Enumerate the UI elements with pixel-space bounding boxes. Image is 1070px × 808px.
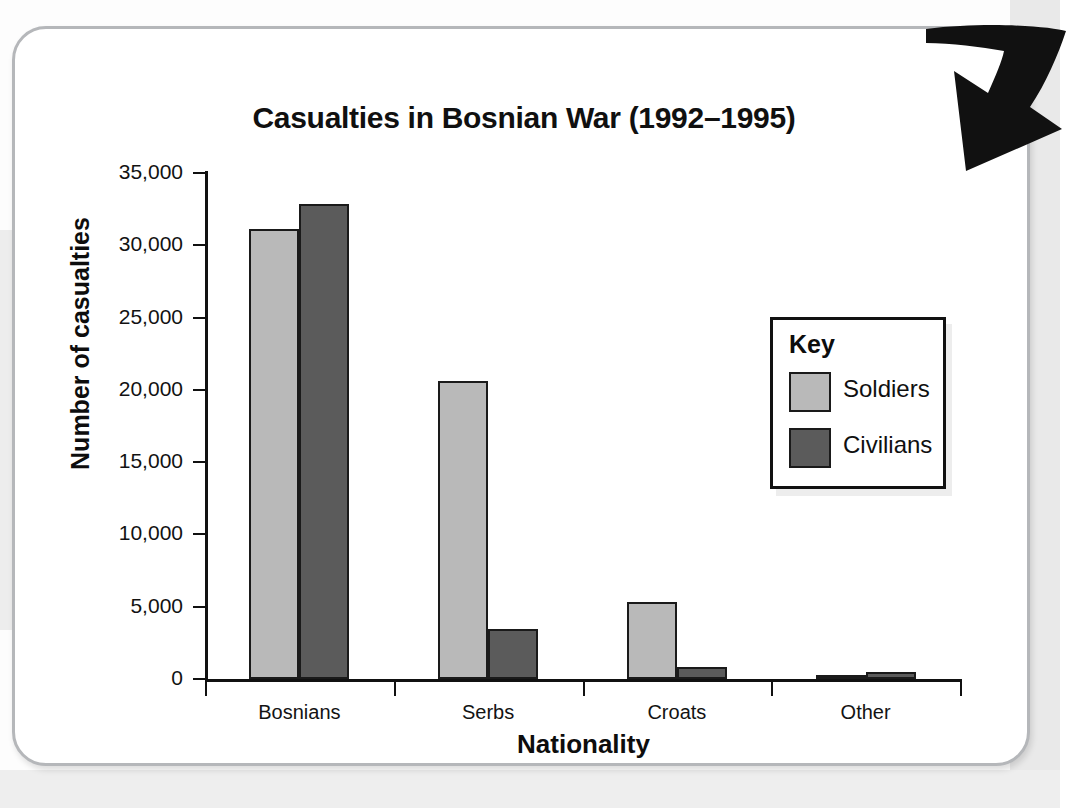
y-axis-tick — [193, 606, 207, 608]
x-axis-tick — [771, 680, 773, 696]
y-axis-title: Number of casualties — [66, 144, 95, 544]
y-axis-tick — [193, 244, 207, 246]
bar-bosnians-civilians — [299, 204, 349, 679]
y-axis-tick-label: 30,000 — [63, 232, 183, 256]
x-axis-tick-label: Bosnians — [204, 701, 394, 724]
y-axis-tick — [193, 172, 207, 174]
x-axis-tick — [583, 680, 585, 696]
legend-title: Key — [789, 330, 835, 359]
legend-swatch-icon — [789, 428, 831, 468]
bar-bosnians-soldiers — [249, 229, 299, 679]
y-axis-tick — [193, 317, 207, 319]
y-axis-tick-label: 15,000 — [63, 449, 183, 473]
x-axis-tick-label: Serbs — [393, 701, 583, 724]
x-axis-tick — [960, 680, 962, 696]
y-axis-tick — [193, 533, 207, 535]
bar-other-civilians — [866, 672, 916, 679]
y-axis-tick-label: 10,000 — [63, 521, 183, 545]
bar-croats-civilians — [677, 667, 727, 679]
x-axis-tick — [394, 680, 396, 696]
y-axis-tick-label: 35,000 — [63, 160, 183, 184]
legend-label: Soldiers — [843, 375, 930, 403]
y-axis-tick — [193, 389, 207, 391]
bar-croats-soldiers — [627, 602, 677, 679]
y-axis-tick-label: 0 — [63, 666, 183, 690]
bar-serbs-soldiers — [438, 381, 488, 679]
y-axis-tick-label: 20,000 — [63, 377, 183, 401]
figure-frame: Casualties in Bosnian War (1992–1995) Nu… — [12, 26, 1030, 766]
bar-serbs-civilians — [488, 629, 538, 679]
legend-label: Civilians — [843, 431, 932, 459]
legend-swatch-icon — [789, 372, 831, 412]
bar-other-soldiers — [816, 675, 866, 679]
x-axis-title: Nationality — [205, 729, 962, 760]
y-axis-tick-label: 25,000 — [63, 305, 183, 329]
legend-box: Key SoldiersCivilians — [770, 317, 946, 489]
x-axis-tick-label: Other — [771, 701, 961, 724]
y-axis-tick-label: 5,000 — [63, 594, 183, 618]
x-axis-tick-label: Croats — [582, 701, 772, 724]
y-axis-tick — [193, 461, 207, 463]
x-axis-tick — [205, 680, 207, 696]
